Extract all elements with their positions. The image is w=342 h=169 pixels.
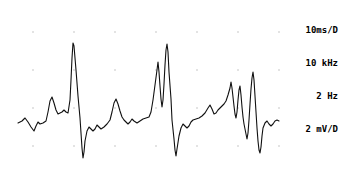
- graticule-dot: [237, 31, 239, 33]
- graticule-dot: [73, 31, 75, 33]
- graticule-dot: [114, 31, 116, 33]
- setting-timebase: 10ms/D: [305, 25, 338, 36]
- graticule-dot: [114, 69, 116, 71]
- setting-sample-rate: 10 kHz: [305, 58, 338, 69]
- graticule-dot: [237, 145, 239, 147]
- setting-gain: 2 mV/D: [305, 124, 338, 135]
- oscilloscope-screen: 10ms/D 10 kHz 2 Hz 2 mV/D: [0, 0, 342, 169]
- graticule-dot: [114, 145, 116, 147]
- graticule-dot: [73, 69, 75, 71]
- ecg-waveform-trace: [18, 43, 279, 158]
- graticule-dot: [196, 107, 198, 109]
- graticule-dot: [237, 69, 239, 71]
- graticule-dot: [32, 31, 34, 33]
- graticule-dot: [196, 31, 198, 33]
- setting-filter-frequency: 2 Hz: [305, 91, 338, 102]
- graticule-grid: [32, 31, 280, 147]
- ecg-waveform: [18, 43, 279, 158]
- graticule-dot: [278, 107, 280, 109]
- graticule-dot: [155, 145, 157, 147]
- graticule-dot: [155, 107, 157, 109]
- graticule-dot: [32, 69, 34, 71]
- graticule-dot: [196, 145, 198, 147]
- graticule-dot: [155, 31, 157, 33]
- graticule-dot: [278, 145, 280, 147]
- graticule-dot: [196, 69, 198, 71]
- graticule-dot: [73, 107, 75, 109]
- graticule-dot: [32, 145, 34, 147]
- graticule-dot: [278, 31, 280, 33]
- graticule-dot: [278, 69, 280, 71]
- graticule-dot: [32, 107, 34, 109]
- waveform-canvas: [0, 0, 342, 169]
- settings-readout-panel: 10ms/D 10 kHz 2 Hz 2 mV/D: [305, 3, 338, 157]
- graticule-dot: [114, 107, 116, 109]
- graticule-dot: [73, 145, 75, 147]
